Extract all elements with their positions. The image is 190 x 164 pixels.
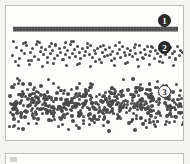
scatter-dot (38, 108, 41, 111)
scatter-dot (69, 43, 72, 46)
scatter-dot (33, 86, 36, 89)
scatter-dot (87, 113, 90, 116)
scatter-dot (121, 45, 124, 48)
scatter-dot (50, 42, 53, 45)
scatter-dot (181, 123, 184, 126)
scatter-dot (52, 100, 55, 103)
scatter-dot (59, 107, 63, 111)
callout-marker-1[interactable]: 1 (158, 14, 171, 27)
scatter-dot (156, 120, 159, 123)
scatter-dot (138, 44, 141, 47)
scatter-dot (119, 117, 122, 120)
scatter-dot (88, 123, 91, 126)
scatter-dot (129, 107, 132, 110)
scatter-dot (65, 108, 68, 111)
scatter-dot (62, 58, 65, 61)
scatter-dot (116, 97, 119, 100)
scatter-dot (114, 44, 117, 47)
scatter-dot (35, 122, 38, 125)
scatter-dot (70, 88, 73, 91)
scatter-dot (93, 117, 96, 120)
scatter-dot (46, 90, 49, 93)
scatter-dot (178, 54, 181, 57)
scatter-dot (153, 57, 156, 60)
scatter-dot (75, 86, 79, 90)
scatter-dot (71, 119, 75, 123)
scatter-dot (110, 59, 113, 62)
scatter-dot (26, 110, 29, 113)
scatter-dot (27, 122, 30, 125)
scatter-dot (89, 44, 92, 47)
scatter-dot (159, 55, 162, 58)
scatter-dot (35, 90, 38, 93)
scatter-dot (15, 46, 18, 49)
scatter-dot (144, 119, 147, 122)
scatter-dot (24, 41, 27, 44)
scatter-dot (175, 83, 178, 86)
scatter-dot (156, 80, 159, 83)
scatter-dot (46, 61, 49, 64)
scatter-dot (62, 113, 65, 116)
scatter-dot (91, 56, 94, 59)
scatter-dot (60, 89, 63, 92)
scatter-dot (8, 125, 11, 128)
scatter-dot (77, 126, 81, 130)
scatter-dot (173, 101, 176, 104)
scatter-dot (39, 84, 43, 88)
scatter-dot (8, 94, 12, 98)
scatter-dot (158, 101, 161, 104)
scatter-dot (138, 86, 141, 89)
callout-marker-2[interactable]: 2 (158, 41, 171, 54)
scatter-dot (17, 82, 20, 85)
scatter-dot (113, 64, 116, 67)
scatter-dot (157, 110, 160, 113)
callout-marker-3[interactable]: 3 (158, 85, 171, 98)
scatter-dot (154, 86, 157, 89)
scatter-dot (41, 65, 44, 68)
scatter-dot (135, 117, 138, 120)
scatter-dot (140, 108, 143, 111)
scatter-dot (148, 54, 151, 57)
scatter-dot (17, 127, 20, 130)
scatter-dot (25, 44, 28, 47)
scatter-dot (97, 111, 100, 114)
scatter-dot (59, 97, 63, 101)
scatter-dot (100, 61, 103, 64)
scatter-dot (66, 100, 69, 103)
scatter-dot (177, 105, 180, 108)
scatter-dot (116, 52, 119, 55)
scatter-dot (74, 55, 77, 58)
scatter-dot (53, 57, 56, 60)
scatter-dot (146, 45, 149, 48)
scatter-dot (150, 92, 153, 95)
scatter-dot (173, 50, 176, 53)
scatter-dot (33, 55, 36, 58)
scatter-dot (168, 56, 171, 59)
scatter-dot (31, 47, 34, 50)
scatter-dot (131, 55, 134, 58)
scatter-dot (137, 65, 140, 68)
scatter-dot (93, 121, 96, 124)
scatter-dot (124, 54, 127, 57)
scatter-dot (89, 82, 92, 85)
scatter-dot (111, 50, 114, 53)
scatter-dot (68, 56, 71, 59)
scatter-dot (104, 48, 107, 51)
scatter-dot (30, 59, 33, 62)
scatter-dot (171, 90, 175, 94)
scatter-dot (145, 126, 148, 129)
scatter-dot (141, 122, 145, 126)
scatter-dot (95, 95, 98, 98)
scatter-dot (78, 98, 81, 101)
scatter-dot (122, 78, 125, 81)
scatter-dot (134, 43, 137, 46)
scatter-dot (50, 96, 53, 99)
scatter-dot (55, 91, 59, 95)
scatter-dot (45, 104, 48, 107)
scatter-dot (13, 124, 16, 127)
scatter-dot (101, 51, 104, 54)
solid-line-band (6, 23, 183, 37)
scatter-dot (129, 49, 132, 52)
scatter-dot (148, 121, 151, 124)
scatter-dot (78, 82, 81, 85)
